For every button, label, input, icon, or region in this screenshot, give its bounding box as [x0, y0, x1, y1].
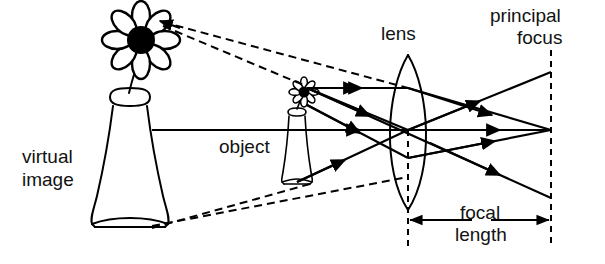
label-focal-length-line1: focal [460, 202, 500, 223]
optics-diagram: virtual image object lens principal focu… [0, 0, 605, 264]
label-focal-length-line2: length [455, 224, 507, 245]
label-virtual-image-line2: image [22, 169, 74, 190]
construction-ray-lower-a [152, 177, 408, 226]
virtual-image-flower-center [127, 26, 155, 54]
virtual-image-figure [91, 1, 180, 227]
ray-lower-incident-arrow [297, 160, 345, 182]
ray-lower-refracted-arrow [408, 101, 480, 130]
virtual-image-vase [91, 88, 168, 227]
label-principal-focus-line2: focus [517, 27, 562, 48]
virtual-image-flower [102, 1, 180, 79]
ray-top-entering [307, 88, 408, 130]
label-virtual-image-line1: virtual [22, 146, 73, 167]
label-lens: lens [381, 23, 416, 44]
construction-ray-upper-b [163, 26, 306, 86]
ray-upper-oblique-refracted-arrow [408, 141, 495, 158]
ray-diagram-canvas: virtual image object lens principal focu… [0, 0, 605, 264]
virtual-image-construction-rays [152, 21, 408, 228]
object-vase [282, 108, 313, 184]
lens-right-surface [408, 55, 426, 210]
construction-ray-lower-b [152, 184, 310, 228]
label-principal-focus-line1: principal [490, 5, 561, 26]
label-object: object [219, 136, 270, 157]
light-rays [297, 72, 551, 198]
